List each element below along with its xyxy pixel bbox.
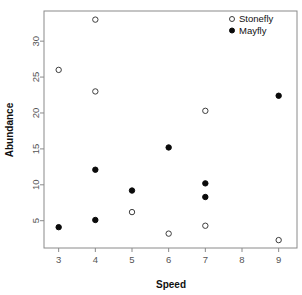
y-tick-label: 30 — [30, 36, 41, 47]
data-points-group — [56, 17, 281, 243]
x-tick-label: 9 — [276, 254, 281, 265]
scatter-plot-figure: 3456789 51015202530 StoneflyMayfly Speed… — [0, 0, 302, 295]
data-point-mayfly — [56, 224, 61, 229]
data-point-stonefly — [166, 231, 171, 236]
data-point-mayfly — [276, 93, 281, 98]
x-axis-title: Speed — [156, 279, 186, 290]
y-axis-title: Abundance — [4, 102, 15, 157]
y-tick-label: 5 — [30, 218, 41, 223]
data-point-stonefly — [93, 17, 98, 22]
plot-border — [44, 11, 297, 248]
data-point-mayfly — [203, 194, 208, 199]
data-point-stonefly — [93, 89, 98, 94]
y-axis-ticks: 51015202530 — [30, 36, 44, 223]
y-tick-label: 15 — [30, 144, 41, 155]
data-point-stonefly — [129, 209, 134, 214]
y-tick-label: 20 — [30, 108, 41, 119]
legend-label-stonefly: Stonefly — [239, 13, 274, 24]
y-tick-label: 10 — [30, 180, 41, 191]
y-tick-label: 25 — [30, 72, 41, 83]
x-axis-ticks: 3456789 — [56, 248, 281, 265]
data-point-stonefly — [203, 223, 208, 228]
data-point-stonefly — [56, 67, 61, 72]
legend-marker-stonefly — [230, 17, 235, 22]
legend-label-mayfly: Mayfly — [239, 25, 267, 36]
x-tick-label: 3 — [56, 254, 61, 265]
data-point-mayfly — [166, 145, 171, 150]
plot-frame — [44, 11, 297, 248]
data-point-stonefly — [276, 237, 281, 242]
data-point-stonefly — [203, 108, 208, 113]
data-point-mayfly — [203, 181, 208, 186]
x-tick-label: 7 — [203, 254, 208, 265]
data-point-mayfly — [93, 217, 98, 222]
plot-canvas: 3456789 51015202530 StoneflyMayfly Speed… — [0, 0, 302, 295]
x-tick-label: 8 — [239, 254, 244, 265]
data-point-mayfly — [129, 188, 134, 193]
data-point-mayfly — [93, 167, 98, 172]
x-tick-label: 6 — [166, 254, 171, 265]
legend: StoneflyMayfly — [230, 13, 274, 36]
legend-marker-mayfly — [230, 28, 235, 33]
x-tick-label: 4 — [93, 254, 98, 265]
x-tick-label: 5 — [129, 254, 134, 265]
